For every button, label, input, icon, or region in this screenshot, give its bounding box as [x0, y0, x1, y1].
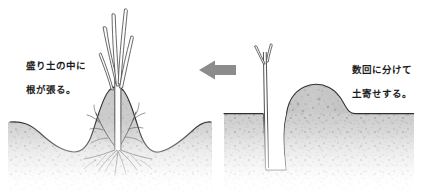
caption-left-line2: 根が張る。 [26, 84, 76, 95]
leaf-2 [112, 14, 119, 86]
caption-right-hilling: 数回に分けて 土寄せする。 [339, 52, 412, 112]
caption-left-line1: 盛り土の中に [26, 60, 86, 71]
illustration-figure: 盛り土の中に 根が張る。 数回に分けて 土寄せする。 [0, 0, 424, 194]
left-plant-leaves [99, 9, 133, 90]
r-leaf-2 [266, 44, 272, 62]
caption-left-mound: 盛り土の中に 根が張る。 [13, 48, 86, 108]
caption-right-line2: 土寄せする。 [352, 88, 412, 99]
left-arrow-icon [199, 61, 236, 80]
caption-right-line1: 数回に分けて [352, 64, 412, 75]
